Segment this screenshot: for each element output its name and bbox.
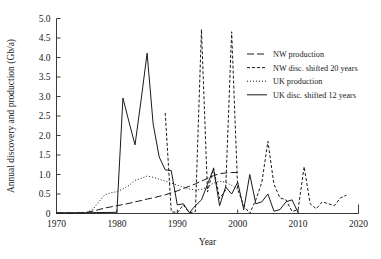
legend-label-4: UK disc. shifted 12 years — [273, 91, 356, 100]
y-tick-label: 0 — [46, 209, 51, 219]
y-axis-label: Annual discovery and production (Gb/a) — [6, 39, 17, 193]
y-tick-label: 2.5 — [39, 111, 51, 121]
legend-label-2: NW disc. shifted 20 years — [273, 64, 358, 73]
series-line-1 — [57, 173, 238, 214]
axes: 00.51.01.52.02.53.03.54.04.55.0197019801… — [39, 14, 369, 229]
y-tick-label: 0.5 — [39, 189, 51, 199]
y-tick-label: 1.0 — [39, 170, 51, 180]
y-tick-label: 4.5 — [39, 33, 51, 43]
y-tick-label: 1.5 — [39, 150, 51, 160]
legend-label-1: NW production — [273, 50, 324, 59]
x-tick-label: 1980 — [107, 219, 126, 229]
x-axis-title: Year — [199, 237, 217, 247]
x-tick-label: 1970 — [47, 219, 66, 229]
y-tick-label: 5.0 — [39, 14, 51, 24]
y-tick-label: 2.0 — [39, 131, 51, 141]
x-tick-label: 2010 — [289, 219, 308, 229]
series-line-4 — [57, 53, 299, 213]
x-tick-label: 1990 — [168, 219, 187, 229]
y-tick-label: 3.0 — [39, 92, 51, 102]
legend: NW productionNW disc. shifted 20 yearsUK… — [247, 50, 358, 100]
y-axis-title: Annual discovery and production (Gb/a) — [6, 39, 17, 193]
chart-figure: 00.51.01.52.02.53.03.54.04.55.0197019801… — [0, 0, 381, 259]
x-tick-label: 2000 — [228, 219, 247, 229]
y-tick-label: 3.5 — [39, 72, 51, 82]
x-tick-label: 2020 — [349, 219, 368, 229]
y-tick-label: 4.0 — [39, 53, 51, 63]
line-chart: 00.51.01.52.02.53.03.54.04.55.0197019801… — [0, 0, 381, 259]
x-axis-label: Year — [199, 237, 217, 247]
legend-label-3: UK production — [273, 77, 322, 86]
